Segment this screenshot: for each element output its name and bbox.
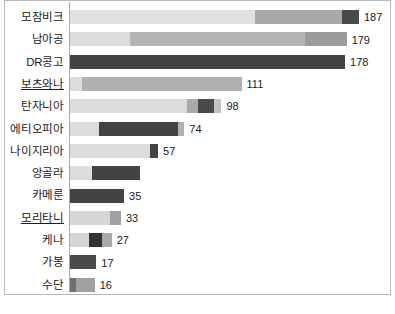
bar-value-label: 179 [352,32,370,48]
bar-segment [255,10,342,24]
bar-segment [178,122,184,136]
stacked-bar [70,255,96,269]
category-label: 보츠와나 [0,73,64,95]
bar-row: 보츠와나111 [0,73,395,95]
bar-segment [89,233,103,247]
bar-value-label: 178 [350,54,368,70]
bar-value-label: 74 [189,121,201,137]
bar-segment [76,278,95,292]
category-label: 케나 [0,229,64,251]
stacked-bar [70,55,345,69]
bar-row: 탄자니아98 [0,95,395,117]
bar-segment [70,211,110,225]
bar-segment [82,77,241,91]
bar-segment [198,99,213,113]
category-label: DR콩고 [0,51,64,73]
bar-value-label: 33 [126,210,138,226]
bar-value-label: 187 [364,9,382,25]
bar-segment [110,211,121,225]
bar-segment [70,55,345,69]
stacked-bar [70,77,242,91]
bar-row: 케나27 [0,229,395,251]
bar-row: 에티오피아74 [0,118,395,140]
stacked-bar [70,278,95,292]
bar-value-label: 35 [129,188,141,204]
bar-row: 수단16 [0,274,395,296]
category-label: 카메룬 [0,184,64,206]
bar-row: 나이지리아57 [0,140,395,162]
bar-segment [342,10,359,24]
stacked-bar [70,99,221,113]
bar-segment [305,32,347,46]
bar-value-label: 57 [163,143,175,159]
category-label: 가봉 [0,251,64,273]
bar-row: 모리타니33 [0,207,395,229]
bar-row: 가봉17 [0,251,395,273]
category-label: 수단 [0,274,64,296]
bar-row: 앙골라 [0,162,395,184]
stacked-bar [70,233,112,247]
bar-segment [92,166,140,180]
bar-segment [70,32,130,46]
stacked-bar [70,122,184,136]
bar-value-label: 16 [100,277,112,293]
stacked-bar [70,211,121,225]
bar-value-label: 27 [117,232,129,248]
category-label: 모잠비크 [0,6,64,28]
bar-segment [70,99,187,113]
bar-segment [70,10,255,24]
bar-value-label: 17 [101,255,113,271]
category-label: 탄자니아 [0,95,64,117]
bar-segment [70,77,82,91]
stacked-bar [70,144,158,158]
category-label: 앙골라 [0,162,64,184]
bar-row: 모잠비크187 [0,6,395,28]
bar-segment [70,144,150,158]
bar-row: DR콩고178 [0,51,395,73]
bar-segment [70,233,89,247]
bar-row: 카메룬35 [0,184,395,206]
category-label: 에티오피아 [0,118,64,140]
stacked-bar-chart: 모잠비크187남아공179DR콩고178보츠와나111탄자니아98에티오피아74… [0,0,395,314]
stacked-bar [70,189,124,203]
stacked-bar [70,166,140,180]
category-label: 나이지리아 [0,140,64,162]
bar-row: 남아공179 [0,28,395,50]
bar-segment [102,233,111,247]
bar-segment [150,144,158,158]
bar-segment [99,122,178,136]
stacked-bar [70,10,359,24]
bar-segment [130,32,305,46]
bar-segment [70,166,92,180]
bar-value-label: 111 [247,76,264,92]
category-label: 남아공 [0,28,64,50]
bar-segment [187,99,198,113]
category-label: 모리타니 [0,207,64,229]
bar-segment [70,189,124,203]
bar-segment [70,122,99,136]
bar-segment [214,99,222,113]
stacked-bar [70,32,347,46]
bar-segment [70,255,96,269]
bar-value-label: 98 [226,98,238,114]
